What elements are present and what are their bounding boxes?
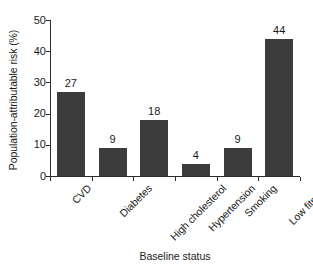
x-axis-tick-label: CVD	[69, 182, 93, 206]
y-axis-tick-label: 30	[24, 77, 46, 88]
y-axis-tick-label: 0	[24, 171, 46, 182]
x-axis-tick-label: Low fitness	[286, 182, 313, 227]
bar	[140, 120, 168, 176]
bar-value-label: 4	[176, 150, 216, 161]
y-axis-tick-mark	[46, 114, 50, 115]
bar	[99, 148, 127, 176]
bar	[265, 39, 293, 176]
bar-value-label: 44	[259, 25, 299, 36]
y-axis-title: Population-attributable risk (%)	[6, 10, 20, 190]
x-axis-tick-mark	[50, 177, 51, 181]
x-axis-tick-mark	[217, 177, 218, 181]
x-axis-title: Baseline status	[50, 250, 300, 263]
bar	[57, 92, 85, 176]
y-axis-tick-mark	[46, 20, 50, 21]
x-axis-tick-mark	[258, 177, 259, 181]
bar-chart-figure: Population-attributable risk (%) 0102030…	[0, 0, 313, 274]
y-axis-tick-mark	[46, 82, 50, 83]
x-axis-tick-mark	[175, 177, 176, 181]
plot-area: 279184944	[50, 20, 300, 176]
x-axis-tick-labels: CVDDiabetesHigh cholesterolHypertensionS…	[50, 182, 300, 252]
y-axis-tick-labels: 01020304050	[24, 0, 46, 274]
bar	[182, 164, 210, 176]
bar-value-label: 27	[51, 78, 91, 89]
y-axis-line	[50, 20, 51, 177]
y-axis-tick-label: 50	[24, 15, 46, 26]
y-axis-tick-mark	[46, 145, 50, 146]
y-axis-tick-label: 40	[24, 46, 46, 57]
x-axis-tick-mark	[300, 177, 301, 181]
bar-value-label: 9	[93, 134, 133, 145]
y-axis-tick-label: 10	[24, 139, 46, 150]
x-axis-tick-label: Diabetes	[116, 182, 153, 219]
y-axis-tick-mark	[46, 51, 50, 52]
x-axis-tick-mark	[133, 177, 134, 181]
x-axis-tick-mark	[92, 177, 93, 181]
bar-value-label: 18	[134, 106, 174, 117]
bar-value-label: 9	[218, 134, 258, 145]
y-axis-tick-label: 20	[24, 108, 46, 119]
bar	[224, 148, 252, 176]
